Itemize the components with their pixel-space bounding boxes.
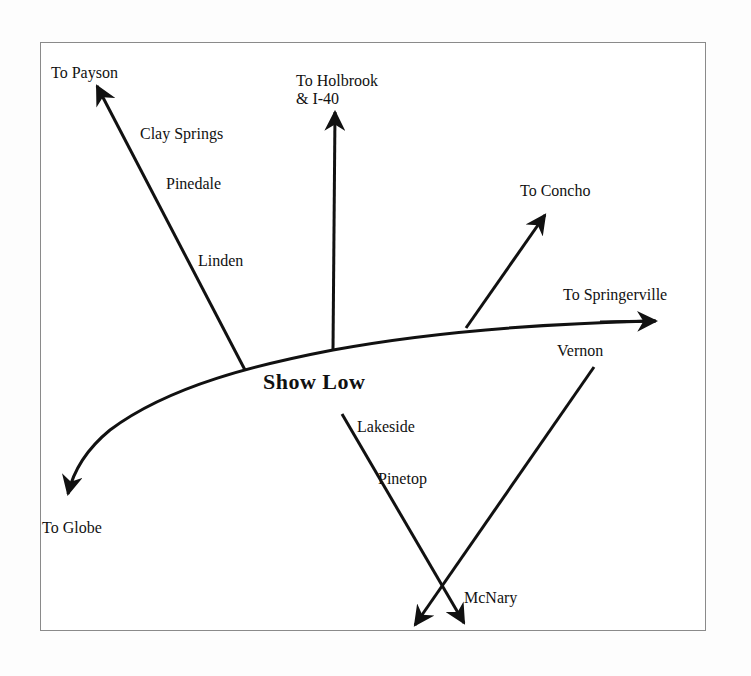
label-to-payson: To Payson xyxy=(51,64,118,82)
vernon-road xyxy=(415,367,594,625)
label-mcnary: McNary xyxy=(464,589,517,607)
label-to-globe: To Globe xyxy=(42,519,102,537)
label-clay-springs: Clay Springs xyxy=(140,125,223,143)
label-lakeside: Lakeside xyxy=(357,418,415,436)
springerville-arrow xyxy=(600,321,656,322)
holbrook-road xyxy=(333,112,335,350)
label-to-springerville: To Springerville xyxy=(563,286,667,304)
label-to-concho: To Concho xyxy=(520,182,590,200)
road-network xyxy=(0,0,751,676)
pinetop-road xyxy=(342,414,464,623)
label-to-holbrook: To Holbrook xyxy=(296,72,378,90)
label-pinetop: Pinetop xyxy=(378,470,427,488)
concho-road xyxy=(466,215,545,328)
label-linden: Linden xyxy=(198,252,243,270)
label-vernon: Vernon xyxy=(557,342,603,360)
label-pinedale: Pinedale xyxy=(166,175,221,193)
label-holbrook-interstate: & I-40 xyxy=(296,90,339,108)
label-show-low: Show Low xyxy=(263,369,365,395)
